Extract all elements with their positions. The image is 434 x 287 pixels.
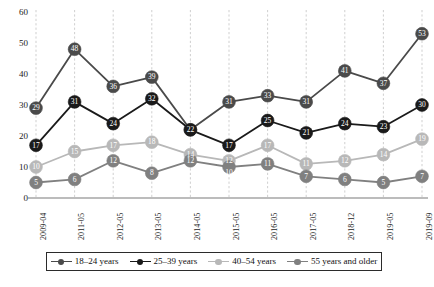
x-axis-tick-label: 2019-05 [387, 213, 395, 240]
data-point-marker [145, 71, 158, 84]
data-point-marker [338, 154, 351, 167]
y-axis-tick-label: 60 [4, 8, 28, 17]
data-point-marker [300, 158, 313, 171]
data-point-marker [223, 161, 236, 174]
data-point-marker [338, 117, 351, 130]
data-point-marker [30, 161, 43, 174]
y-axis-tick-label: 20 [4, 132, 28, 141]
x-axis-tick-label: 2011-05 [78, 213, 86, 240]
x-axis-tick-label: 2016-05 [271, 213, 279, 240]
data-point-marker [145, 136, 158, 149]
data-point-marker [416, 170, 429, 183]
data-point-marker [68, 96, 81, 109]
data-point-marker [377, 148, 390, 161]
data-point-marker [261, 89, 274, 102]
data-point-marker [416, 99, 429, 112]
data-point-marker [416, 133, 429, 146]
legend-item[interactable]: 25–39 years [130, 257, 198, 266]
chart-canvas [0, 0, 430, 245]
data-point-marker [107, 154, 120, 167]
data-point-marker [338, 65, 351, 78]
x-axis-tick-label: 2012-05 [117, 213, 125, 240]
legend-item[interactable]: 40–54 years [208, 257, 276, 266]
x-axis-tick-label: 2019-09 [426, 213, 434, 240]
plot-area: 6050403020100 2009-042011-052012-052013-… [0, 0, 430, 245]
legend-marker-icon [287, 257, 308, 266]
legend-marker-icon [130, 257, 151, 266]
x-axis-tick-label: 2013-05 [155, 213, 163, 240]
data-point-marker [30, 139, 43, 152]
data-point-marker [377, 120, 390, 133]
data-point-marker [68, 173, 81, 186]
data-point-marker [145, 167, 158, 180]
data-point-marker [261, 114, 274, 127]
data-point-marker [184, 123, 197, 136]
data-point-marker [261, 158, 274, 171]
legend-item-label: 18–24 years [75, 257, 119, 266]
data-point-marker [300, 170, 313, 183]
data-point-marker [184, 154, 197, 167]
y-axis-tick-label: 50 [4, 39, 28, 48]
chart-legend: 18–24 years25–39 years40–54 years55 year… [46, 252, 382, 271]
data-point-marker [338, 173, 351, 186]
data-point-marker [107, 117, 120, 130]
y-axis-tick-label: 40 [4, 70, 28, 79]
x-axis-tick-label: 2017-05 [310, 213, 318, 240]
legend-marker-icon [208, 257, 229, 266]
data-point-marker [300, 96, 313, 109]
x-axis-tick-label: 2015-05 [233, 213, 241, 240]
legend-item[interactable]: 18–24 years [51, 257, 119, 266]
data-point-marker [68, 43, 81, 56]
data-point-marker [377, 176, 390, 189]
data-point-marker [145, 92, 158, 105]
data-point-marker [107, 80, 120, 93]
x-axis-tick-label: 2014-05 [194, 213, 202, 240]
x-axis-tick-label: 2018-12 [348, 213, 356, 240]
legend-marker-icon [51, 257, 72, 266]
x-axis-tick-label: 2009-04 [40, 213, 48, 240]
data-point-marker [377, 77, 390, 90]
y-axis-tick-label: 30 [4, 101, 28, 110]
data-point-marker [416, 27, 429, 40]
y-axis-tick-label: 0 [4, 194, 28, 203]
data-point-marker [223, 139, 236, 152]
data-point-marker [30, 176, 43, 189]
data-point-marker [107, 139, 120, 152]
legend-item-label: 55 years and older [311, 257, 377, 266]
y-axis-tick-label: 10 [4, 163, 28, 172]
data-point-marker [300, 126, 313, 139]
data-point-marker [30, 102, 43, 115]
data-point-marker [223, 96, 236, 109]
legend-item-label: 40–54 years [232, 257, 276, 266]
data-point-marker [68, 145, 81, 158]
legend-item[interactable]: 55 years and older [287, 257, 377, 266]
data-point-marker [261, 139, 274, 152]
legend-item-label: 25–39 years [154, 257, 198, 266]
